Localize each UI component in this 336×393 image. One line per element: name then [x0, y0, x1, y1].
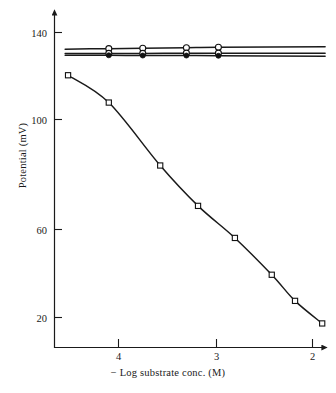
- data-point-marker: [215, 44, 221, 50]
- y-axis-title: Potential (mV): [17, 96, 28, 216]
- data-point-marker: [195, 203, 200, 208]
- x-tick-label-3: 3: [214, 351, 219, 362]
- figure-container: 140 100 60 20 4 3 2 Potential (mV) − Log…: [0, 0, 336, 393]
- x-axis-ticks: [119, 339, 313, 348]
- data-point-marker: [140, 53, 145, 58]
- data-point-marker: [106, 100, 111, 105]
- series-line: [68, 75, 322, 323]
- y-tick-label-140: 140: [31, 28, 47, 39]
- data-point-marker: [292, 298, 297, 303]
- y-tick-label-20: 20: [37, 313, 48, 324]
- data-point-marker: [106, 53, 111, 58]
- series-0: [65, 44, 325, 51]
- data-point-marker: [158, 163, 163, 168]
- plot-area: 140 100 60 20 4 3 2: [0, 0, 336, 393]
- figure-caption-fragment: [6, 385, 336, 393]
- data-point-marker: [184, 53, 189, 58]
- series-3: [65, 73, 324, 326]
- y-tick-label-100: 100: [31, 115, 47, 126]
- data-point-marker: [232, 235, 237, 240]
- data-point-marker: [320, 321, 325, 326]
- data-point-marker: [216, 53, 221, 58]
- x-axis-title: − Log substrate conc. (M): [0, 367, 336, 378]
- data-point-marker: [65, 73, 70, 78]
- data-series-layer: [65, 44, 325, 326]
- data-point-marker: [269, 272, 274, 277]
- y-tick-label-60: 60: [37, 225, 48, 236]
- y-axis-ticks: [54, 33, 62, 318]
- x-tick-label-4: 4: [116, 351, 122, 362]
- series-line: [65, 47, 325, 49]
- axis-lines: [54, 15, 322, 348]
- x-tick-label-2: 2: [310, 351, 315, 362]
- series-line: [65, 55, 325, 56]
